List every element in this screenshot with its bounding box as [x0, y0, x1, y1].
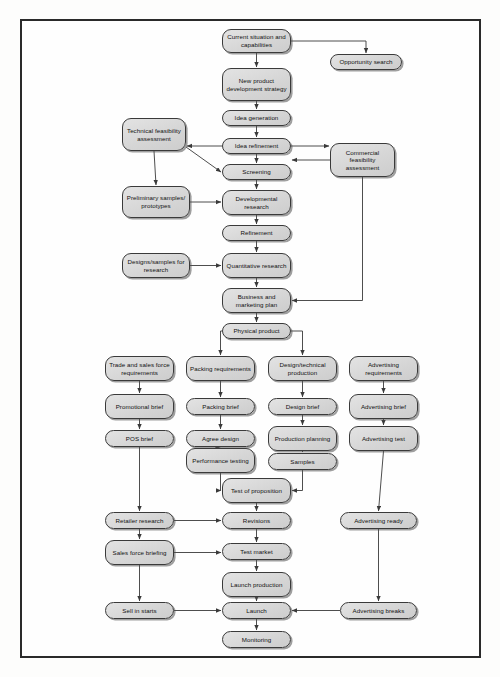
node-label: Opportunity search	[333, 58, 399, 66]
node-label: Screening	[225, 168, 288, 176]
node-label: New product development strategy	[225, 77, 288, 92]
node-label: Advertising breaks	[343, 607, 414, 615]
node-label: Launch production	[225, 581, 288, 589]
node-label: Retailer research	[108, 517, 171, 525]
node-refinement: Refinement	[222, 225, 291, 241]
node-opportunity_search: Opportunity search	[330, 54, 402, 70]
node-label: Preliminary samples/ prototypes	[125, 194, 187, 209]
node-label: Packing requirements	[189, 365, 252, 373]
node-advertising_ready: Advertising ready	[340, 512, 417, 529]
node-label: Quantitative research	[225, 262, 288, 270]
node-design_tech: Design/technical production	[268, 356, 337, 381]
node-designs_samples: Designs/samples for research	[122, 253, 190, 278]
node-promotional_brief: Promotional brief	[105, 394, 174, 419]
node-label: Physical product	[225, 327, 288, 335]
node-screening: Screening	[222, 164, 291, 180]
node-label: Agree design	[189, 435, 252, 443]
node-label: Monitoring	[225, 636, 288, 644]
node-label: Design/technical production	[271, 361, 334, 376]
node-quantitative: Quantitative research	[222, 253, 291, 278]
node-label: Advertising test	[352, 435, 415, 443]
node-label: Launch	[225, 607, 288, 615]
node-technical_feas: Technical feasibility assessment	[122, 118, 186, 151]
node-packing_req: Packing requirements	[186, 356, 255, 381]
node-advertising_brief: Advertising brief	[349, 394, 418, 419]
node-developmental: Developmental research	[222, 190, 291, 215]
node-monitoring: Monitoring	[222, 631, 291, 648]
node-idea_refinement: Idea refinement	[222, 138, 291, 154]
node-label: Design brief	[271, 403, 334, 411]
node-label: Advertising brief	[352, 403, 415, 411]
node-label: Test of proposition	[225, 487, 288, 495]
node-advertising_test: Advertising test	[349, 426, 418, 451]
node-label: Packing brief	[189, 403, 252, 411]
node-current_situation: Current situation and capabilities	[222, 29, 291, 53]
node-design_brief: Design brief	[268, 398, 337, 415]
node-label: Revisions	[225, 517, 288, 525]
node-label: Refinement	[225, 229, 288, 237]
node-label: Idea generation	[225, 114, 288, 122]
node-idea_generation: Idea generation	[222, 110, 291, 126]
node-business_plan: Business and marketing plan	[222, 288, 291, 313]
node-label: Promotional brief	[108, 403, 171, 411]
node-agree_design: Agree design	[186, 430, 255, 447]
node-label: Performance testing	[189, 457, 252, 465]
node-physical_product: Physical product	[222, 323, 291, 339]
node-label: Trade and sales force requirements	[108, 361, 171, 376]
node-label: Current situation and capabilities	[225, 33, 288, 48]
node-launch: Launch	[222, 602, 291, 619]
node-retailer_research: Retailer research	[105, 512, 174, 529]
node-label: Business and marketing plan	[225, 293, 288, 308]
node-npd_strategy: New product development strategy	[222, 68, 291, 101]
node-label: Developmental research	[225, 195, 288, 210]
node-revisions: Revisions	[222, 512, 291, 529]
node-preliminary_samples: Preliminary samples/ prototypes	[122, 186, 190, 218]
node-trade_sales: Trade and sales force requirements	[105, 356, 174, 381]
diagram-page: Current situation and capabilitiesOpport…	[0, 0, 500, 677]
node-label: Designs/samples for research	[125, 258, 187, 273]
node-sales_force_brief: Sales force briefing	[105, 540, 174, 565]
node-advertising_breaks: Advertising breaks	[340, 602, 417, 619]
node-pos_brief: POS brief	[105, 430, 174, 447]
node-advertising_req: Advertising requirements	[349, 356, 418, 381]
node-production_planning: Production planning	[268, 426, 337, 451]
node-test_market: Test market	[222, 543, 291, 560]
node-label: Production planning	[271, 435, 334, 443]
node-performance_testing: Performance testing	[186, 448, 255, 473]
node-test_proposition: Test of proposition	[222, 478, 291, 503]
node-launch_production: Launch production	[222, 572, 291, 597]
node-label: Sales force briefing	[108, 549, 171, 557]
node-label: Advertising ready	[343, 517, 414, 525]
node-label: Idea refinement	[225, 142, 288, 150]
node-label: POS brief	[108, 435, 171, 443]
node-commercial_feas: Commercial feasibility assessment	[330, 143, 395, 177]
node-sell_in_starts: Sell in starts	[105, 602, 174, 619]
node-label: Advertising requirements	[352, 361, 415, 376]
node-label: Test market	[225, 548, 288, 556]
node-label: Sell in starts	[108, 607, 171, 615]
node-label: Commercial feasibility assessment	[333, 149, 392, 172]
node-label: Technical feasibility assessment	[125, 127, 183, 142]
node-label: Samples	[271, 458, 334, 466]
node-packing_brief: Packing brief	[186, 398, 255, 415]
node-samples: Samples	[268, 453, 337, 470]
